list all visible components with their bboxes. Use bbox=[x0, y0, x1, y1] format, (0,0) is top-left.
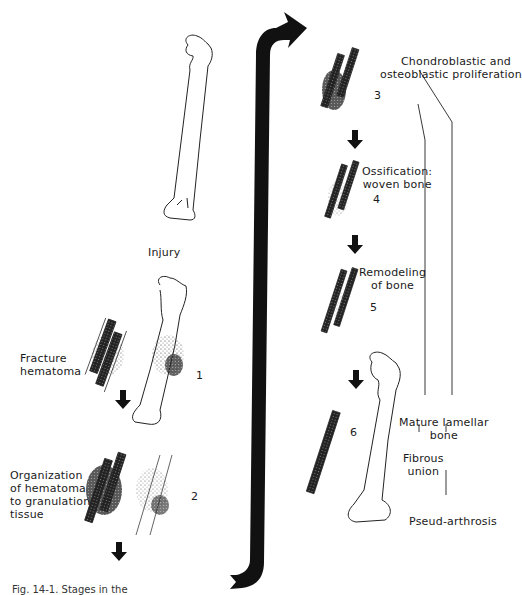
stage-6-number: 6 bbox=[350, 426, 357, 439]
curved-arrow-icon bbox=[230, 12, 307, 589]
stage-2-number: 2 bbox=[191, 490, 198, 503]
stage-1-illustration-icon bbox=[82, 276, 187, 424]
stage-3-label: Chondroblastic and osteoblastic prolifer… bbox=[380, 55, 522, 81]
stage-5-number: 5 bbox=[370, 301, 377, 314]
injury-label: Injury bbox=[148, 246, 180, 259]
stage-2-illustration-icon bbox=[85, 449, 172, 535]
stage-1-label: Fracture hematoma bbox=[20, 352, 81, 378]
outcome-fibrous-union: Fibrous union bbox=[403, 452, 444, 478]
stage-4-number: 4 bbox=[373, 193, 380, 206]
outcome-pseudarthrosis: Pseud-arthrosis bbox=[409, 515, 497, 528]
stage-2-label: Organization of hematoma to granulation … bbox=[10, 469, 90, 521]
stage-3-illustration-icon bbox=[321, 44, 359, 112]
stage-5-label: Remodeling of bone bbox=[359, 266, 426, 292]
stage-1-number: 1 bbox=[196, 369, 203, 382]
outcome-mature-lamellar-bone: Mature lamellar bone bbox=[399, 416, 489, 442]
stage-3-number: 3 bbox=[374, 89, 381, 102]
stage-4-illustration-icon bbox=[325, 157, 359, 221]
femur-injury-icon bbox=[164, 35, 212, 220]
figure-caption: Fig. 14-1. Stages in the bbox=[12, 584, 128, 595]
stage-5-illustration-icon bbox=[321, 264, 358, 336]
stage-4-label: Ossification: woven bone bbox=[362, 165, 432, 191]
